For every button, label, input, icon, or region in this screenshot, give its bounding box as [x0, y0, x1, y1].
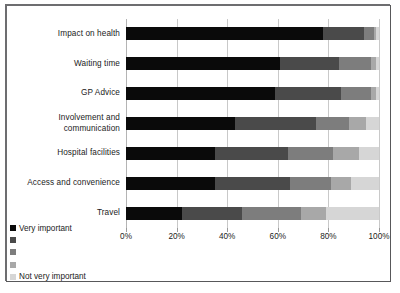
- bar-track: [126, 147, 379, 160]
- bar-row[interactable]: [126, 177, 379, 190]
- x-axis-tick-label: 100%: [369, 232, 390, 241]
- x-axis-tick-labels: 0%20%40%60%80%100%: [126, 232, 379, 246]
- legend-label: Very important: [19, 224, 72, 233]
- bar-segment-2[interactable]: [215, 147, 288, 160]
- bar-segment-1[interactable]: [126, 27, 323, 40]
- legend-swatch-icon: [10, 274, 16, 280]
- bar-segment-1[interactable]: [126, 177, 215, 190]
- bar-segment-4[interactable]: [349, 117, 367, 130]
- legend-label: Not very important: [19, 272, 86, 281]
- bar-segment-4[interactable]: [331, 177, 351, 190]
- y-axis-label: Hospital facilities: [57, 148, 120, 159]
- legend-item-3[interactable]: [10, 246, 122, 258]
- bar-segment-3[interactable]: [290, 177, 330, 190]
- legend-item-5[interactable]: Not very important: [10, 271, 122, 283]
- bar-segment-2[interactable]: [182, 207, 243, 220]
- bar-segment-5[interactable]: [326, 207, 379, 220]
- bar-segment-2[interactable]: [323, 27, 363, 40]
- x-axis-tick-label: 20%: [168, 232, 184, 241]
- bar-segment-1[interactable]: [126, 87, 275, 100]
- bar-segment-5[interactable]: [359, 147, 379, 160]
- gridline-100%: [379, 19, 380, 228]
- bar-segment-1[interactable]: [126, 147, 215, 160]
- bar-row[interactable]: [126, 147, 379, 160]
- bar-segment-3[interactable]: [242, 207, 300, 220]
- legend-swatch-icon: [10, 237, 16, 243]
- y-axis-label: Access and convenience: [27, 178, 120, 189]
- bar-track: [126, 27, 379, 40]
- bar-segment-2[interactable]: [235, 117, 316, 130]
- chart-legend: Very importantNot very important: [10, 222, 122, 283]
- y-axis-label: Waiting time: [74, 59, 120, 70]
- y-axis-label: Travel: [97, 208, 120, 219]
- bar-segment-4[interactable]: [333, 147, 358, 160]
- bar-segment-5[interactable]: [376, 27, 379, 40]
- x-axis-tick-label: 60%: [270, 232, 286, 241]
- bar-segment-3[interactable]: [364, 27, 374, 40]
- legend-item-4[interactable]: [10, 259, 122, 271]
- bar-track: [126, 57, 379, 70]
- bar-segment-1[interactable]: [126, 207, 182, 220]
- bar-segment-2[interactable]: [215, 177, 291, 190]
- legend-swatch-icon: [10, 249, 16, 255]
- bar-segment-3[interactable]: [316, 117, 349, 130]
- bar-segment-5[interactable]: [366, 117, 379, 130]
- bar-row[interactable]: [126, 87, 379, 100]
- bar-track: [126, 207, 379, 220]
- y-axis-label: GP Advice: [81, 88, 120, 99]
- y-axis-label: Impact on health: [58, 29, 120, 40]
- bar-segment-1[interactable]: [126, 117, 235, 130]
- bar-track: [126, 87, 379, 100]
- x-axis-tick-label: 80%: [320, 232, 336, 241]
- bar-segment-1[interactable]: [126, 57, 280, 70]
- bar-row[interactable]: [126, 27, 379, 40]
- x-axis-tick-label: 40%: [219, 232, 235, 241]
- bar-segment-3[interactable]: [288, 147, 334, 160]
- bar-segment-5[interactable]: [351, 177, 379, 190]
- bar-segment-2[interactable]: [275, 87, 341, 100]
- bar-track: [126, 177, 379, 190]
- bar-row[interactable]: [126, 117, 379, 130]
- bar-row[interactable]: [126, 57, 379, 70]
- legend-item-1[interactable]: Very important: [10, 222, 122, 234]
- legend-item-2[interactable]: [10, 234, 122, 246]
- bar-segment-3[interactable]: [341, 87, 371, 100]
- bar-segment-5[interactable]: [376, 57, 379, 70]
- plot-area: [126, 19, 379, 228]
- bar-row[interactable]: [126, 207, 379, 220]
- legend-swatch-icon: [10, 262, 16, 268]
- chart-frame: Impact on healthWaiting timeGP AdviceInv…: [6, 5, 391, 282]
- bar-track: [126, 117, 379, 130]
- bar-segment-5[interactable]: [376, 87, 379, 100]
- bar-segment-4[interactable]: [301, 207, 326, 220]
- bar-segment-3[interactable]: [339, 57, 372, 70]
- y-axis-label: Involvement and communication: [58, 113, 120, 134]
- legend-swatch-icon: [10, 225, 16, 231]
- y-axis-category-labels: Impact on healthWaiting timeGP AdviceInv…: [7, 19, 120, 228]
- bar-segment-2[interactable]: [280, 57, 338, 70]
